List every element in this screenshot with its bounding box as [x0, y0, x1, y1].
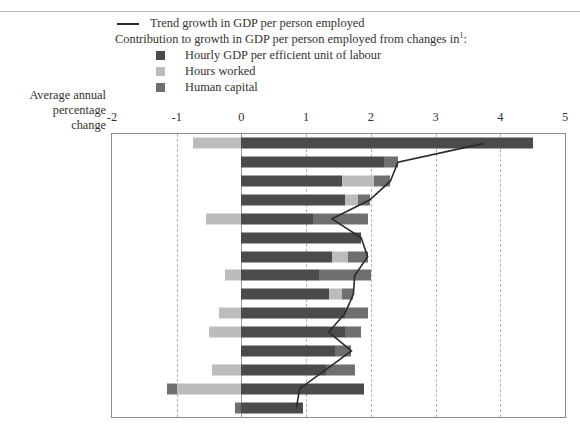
axis-corner-line2: percentage [0, 103, 106, 118]
x-axis-tick-label: 0 [238, 110, 244, 125]
x-axis-tick-label: 4 [497, 110, 503, 125]
trend-line-path [112, 134, 567, 419]
top-rule [0, 11, 580, 12]
legend-item-human-capital: Human capital [150, 80, 545, 95]
axis-corner-line3: change [0, 118, 106, 133]
legend-trend-line-label: Trend growth in GDP per person employed [150, 16, 365, 31]
legend-label-hours-worked: Hours worked [185, 64, 256, 79]
legend-swatch-hours-worked [156, 67, 165, 76]
legend-heading: Contribution to growth in GDP per person… [115, 32, 545, 47]
x-axis-tick-label: 5 [562, 110, 568, 125]
legend-trend-line-row: Trend growth in GDP per person employed [115, 16, 545, 31]
chart-plot-area: -2-1012345 [111, 133, 566, 418]
legend-item-hourly-gdp: Hourly GDP per efficient unit of labour [150, 48, 545, 63]
legend-item-hours-worked: Hours worked [150, 64, 545, 79]
x-axis-tick-label: 3 [432, 110, 438, 125]
axis-corner-line1: Average annual [0, 88, 106, 103]
x-axis-tick-label: 2 [368, 110, 374, 125]
trend-line-icon [115, 16, 141, 31]
axis-corner-label: Average annual percentage change [0, 88, 112, 132]
legend-label-hourly-gdp: Hourly GDP per efficient unit of labour [185, 48, 381, 63]
chart-legend: Trend growth in GDP per person employed … [115, 16, 545, 96]
x-axis-tick-label: -1 [172, 110, 182, 125]
trend-line [296, 143, 484, 407]
x-axis-tick-label: 1 [303, 110, 309, 125]
legend-heading-text: Contribution to growth in GDP per person… [115, 32, 459, 46]
legend-label-human-capital: Human capital [185, 80, 258, 95]
legend-heading-colon: : [463, 32, 466, 46]
legend-swatch-human-capital [156, 83, 165, 92]
x-axis-tick-label: -2 [107, 110, 117, 125]
legend-swatch-hourly-gdp [156, 51, 165, 60]
